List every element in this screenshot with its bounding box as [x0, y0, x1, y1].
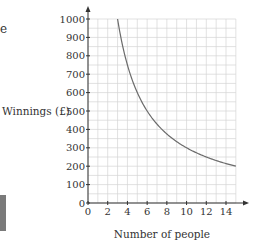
- y-axis-label: Winnings (£): [2, 105, 70, 117]
- y-tick-label: 900: [66, 32, 85, 43]
- y-tick-label: 200: [66, 161, 85, 172]
- y-tick-label: 400: [66, 124, 85, 135]
- x-axis-arrow-icon: [243, 201, 249, 206]
- y-axis-arrow-icon: [86, 6, 91, 12]
- y-tick-label: 600: [66, 87, 85, 98]
- x-tick-label: 2: [105, 206, 111, 217]
- winnings-chart: 0246810121401002003004005006007008009001…: [0, 0, 256, 243]
- x-tick-label: 4: [124, 206, 130, 217]
- x-tick-label: 0: [85, 206, 91, 217]
- x-tick-label: 10: [180, 206, 193, 217]
- y-tick-label: 800: [66, 50, 85, 61]
- y-tick-label: 1000: [60, 14, 85, 25]
- y-tick-label: 0: [79, 198, 85, 209]
- y-tick-label: 100: [66, 179, 85, 190]
- y-tick-label: 700: [66, 69, 85, 80]
- y-tick-label: 300: [66, 142, 85, 153]
- x-tick-label: 6: [144, 206, 150, 217]
- x-tick-label: 12: [200, 206, 213, 217]
- x-tick-label: 8: [164, 206, 170, 217]
- x-axis-label: Number of people: [114, 228, 210, 240]
- grid: [88, 19, 236, 203]
- x-tick-label: 14: [220, 206, 233, 217]
